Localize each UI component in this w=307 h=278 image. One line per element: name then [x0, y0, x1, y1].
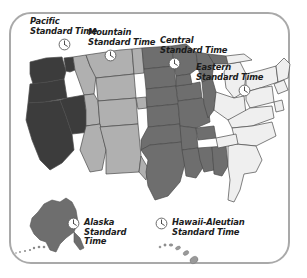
clock-icon-eastern [238, 84, 251, 97]
zone-label-eastern: Eastern Standard Time [196, 63, 263, 82]
clock-icon-alaska [67, 217, 80, 230]
clock-icon-pacific [58, 38, 71, 51]
zone-label-hawaii-line2: Standard Time [172, 228, 245, 238]
zone-label-hawaii-aleutian: Hawaii-Aleutian Standard Time [155, 217, 245, 237]
hawaii-inset [159, 244, 199, 265]
zone-label-mountain-line2: Standard Time [88, 38, 155, 48]
zone-label-central: Central Standard Time [160, 36, 227, 55]
zone-label-central-line2: Standard Time [160, 46, 227, 56]
clock-icon-mountain [104, 49, 117, 62]
time-zone-map-figure: .st { stroke:#4a4a4a; stroke-width:0.7; … [0, 0, 307, 278]
zone-label-alaska: Alaska Standard Time [67, 217, 126, 247]
clock-icon-hawaii-aleutian [155, 217, 168, 230]
zone-label-alaska-line3: Time [84, 237, 126, 247]
zone-label-mountain: Mountain Standard Time [88, 28, 155, 47]
clock-icon-central [168, 57, 181, 70]
zone-label-eastern-line2: Standard Time [196, 73, 263, 83]
aleutian-chain [15, 246, 45, 254]
